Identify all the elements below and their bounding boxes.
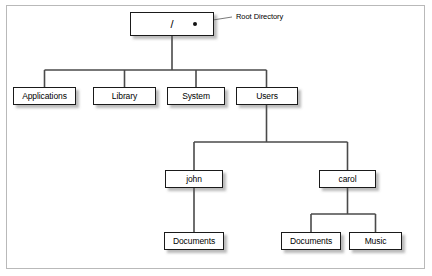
node-john-documents[interactable]: Documents — [164, 232, 224, 250]
node-users[interactable]: Users — [236, 87, 298, 105]
root-dot-icon — [193, 22, 197, 26]
node-carol-music-label: Music — [365, 237, 387, 246]
node-users-label: Users — [256, 92, 278, 101]
node-john[interactable]: john — [165, 170, 223, 188]
node-john-documents-label: Documents — [173, 237, 215, 246]
node-carol-documents-label: Documents — [290, 237, 332, 246]
node-carol-label: carol — [339, 175, 357, 184]
node-library[interactable]: Library — [93, 87, 156, 105]
node-system-label: System — [182, 92, 210, 101]
node-carol-documents[interactable]: Documents — [281, 232, 341, 250]
node-applications[interactable]: Applications — [13, 87, 76, 105]
node-carol-music[interactable]: Music — [349, 232, 402, 250]
root-directory-callout-label: Root Directory — [236, 12, 283, 21]
node-root[interactable]: / — [130, 12, 214, 36]
node-library-label: Library — [112, 92, 137, 101]
node-applications-label: Applications — [22, 92, 67, 101]
node-john-label: john — [186, 175, 202, 184]
filesystem-hierarchy-diagram: / Applications Library System Users john… — [0, 0, 432, 276]
node-system[interactable]: System — [167, 87, 225, 105]
node-root-label: / — [131, 19, 213, 30]
node-carol[interactable]: carol — [319, 170, 376, 188]
